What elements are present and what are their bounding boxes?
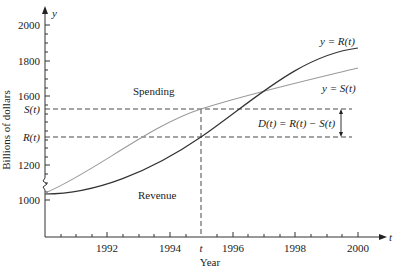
ytick-1600: 1600: [18, 90, 41, 102]
y-axis: [42, 6, 50, 237]
xtick-1992: 1992: [96, 242, 118, 254]
arrow-down-icon: [339, 132, 343, 137]
y-var-label: y: [51, 7, 57, 19]
axis-break-icon: [43, 178, 47, 190]
t-var-label: t: [389, 231, 393, 243]
ytick-1200: 1200: [18, 159, 41, 171]
difference-label: D(t) = R(t) − S(t): [257, 117, 335, 130]
arrow-up-icon: [339, 109, 343, 114]
ytick-2000: 2000: [18, 19, 41, 31]
xtick-1996: 1996: [222, 242, 245, 254]
xtick-2000: 2000: [347, 242, 370, 254]
xtick-t: t: [199, 242, 203, 254]
x-axis-title: Year: [200, 256, 221, 268]
xtick-1994: 1994: [159, 242, 182, 254]
ytick-s: S(t): [24, 103, 40, 116]
x-arrow-icon: [379, 234, 387, 240]
y-arrow-icon: [42, 6, 48, 14]
ytick-1800: 1800: [18, 55, 41, 67]
ytick-1000: 1000: [18, 194, 41, 206]
xtick-1998: 1998: [284, 242, 307, 254]
spending-curve-label: y = S(t): [321, 82, 356, 95]
spending-region-label: Spending: [133, 85, 175, 97]
revenue-region-label: Revenue: [138, 189, 177, 201]
ytick-r: R(t): [22, 131, 40, 144]
chart: y t 2000 1800 1600 S(t) R(t) 1200 1000 B…: [0, 0, 395, 270]
revenue-curve-label: y = R(t): [319, 35, 355, 48]
y-axis-title: Billions of dollars: [0, 90, 12, 169]
x-axis: [45, 232, 387, 240]
difference-bracket: [339, 109, 343, 137]
spending-curve: [45, 68, 358, 193]
